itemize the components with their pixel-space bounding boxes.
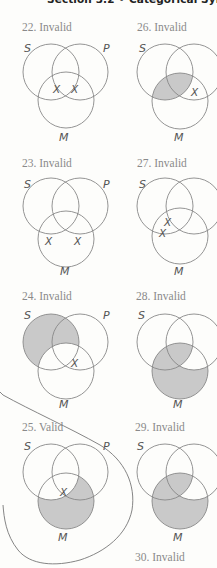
shaded-region [0, 0, 217, 568]
diagram-30-label: 30. Invalid [135, 551, 185, 563]
diagram-29: 29. Invalid S M [0, 0, 217, 568]
venn-diagrams: 22. Invalid S P X X M 26. Invalid S X M … [0, 0, 217, 568]
m-label: M [173, 531, 183, 544]
textbook-page: Section 3.2 • Categorical Syllogi 22. In… [0, 0, 217, 568]
